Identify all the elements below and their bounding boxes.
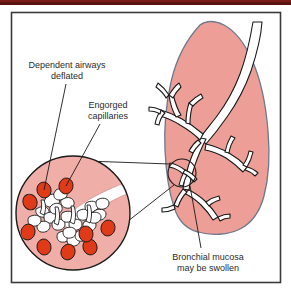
label-dependent-airways-line2: deflated (51, 71, 83, 81)
illustration-canvas: Dependent airways deflated Engorged capi… (0, 0, 291, 296)
label-bronchial-mucosa: Bronchial mucosa may be swollen (172, 252, 244, 273)
label-bronchial-mucosa-line1: Bronchial mucosa (172, 252, 244, 262)
figure-root: Dependent airways deflated Engorged capi… (0, 0, 291, 296)
label-bronchial-mucosa-line2: may be swollen (177, 263, 239, 273)
label-engorged-capillaries-line1: Engorged (88, 100, 127, 110)
label-engorged-capillaries-line2: capillaries (88, 111, 129, 121)
label-dependent-airways-line1: Dependent airways (28, 60, 106, 70)
label-engorged-capillaries: Engorged capillaries (88, 100, 129, 121)
